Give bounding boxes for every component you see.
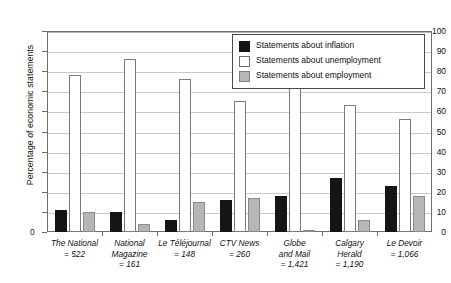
bar-employment [248, 198, 260, 232]
bar-inflation [330, 178, 342, 232]
x-axis-label: NationalMagazine= 161 [102, 238, 157, 270]
x-axis-tick-mark [157, 232, 158, 236]
bar-group [157, 31, 212, 232]
x-axis-label: The National= 522 [47, 238, 102, 270]
x-axis-tick-mark [322, 232, 323, 236]
x-axis-label-count: = 1,190 [322, 259, 377, 270]
x-axis-label: Le Téléjournal= 148 [157, 238, 212, 270]
bar-inflation [385, 186, 397, 232]
x-axis-tick-mark [267, 232, 268, 236]
legend-label-inflation: Statements about inflation [256, 40, 354, 50]
x-axis-label-name: Le Devoir [377, 238, 432, 249]
x-axis-tick-mark [377, 232, 378, 236]
bar-unemployment [179, 79, 191, 232]
bar-employment [358, 220, 370, 232]
x-axis-label-name: Herald [322, 249, 377, 260]
bar-employment [138, 224, 150, 232]
legend-item-inflation: Statements about inflation [239, 40, 418, 52]
x-axis-label: Le Devoir= 1,066 [377, 238, 432, 270]
bar-employment [193, 202, 205, 232]
legend-swatch-unemployment [239, 56, 250, 67]
bar-employment [413, 196, 425, 232]
bar-group [47, 31, 102, 232]
y-axis-zero-label: 0 [30, 227, 35, 237]
x-axis-label-name: Globe [267, 238, 322, 249]
bar-inflation [165, 220, 177, 232]
legend-label-employment: Statements about employment [256, 70, 371, 80]
x-axis-label-name: The National [47, 238, 102, 249]
x-axis-tick-mark [212, 232, 213, 236]
x-axis-label-name: Magazine [102, 249, 157, 260]
x-axis-label-count: = 522 [47, 249, 102, 260]
bar-unemployment [124, 59, 136, 232]
bar-inflation [110, 212, 122, 232]
bar-unemployment [399, 119, 411, 232]
legend-swatch-inflation [239, 41, 250, 52]
bar-inflation [55, 210, 67, 232]
x-axis-label-count: = 260 [212, 249, 267, 260]
x-axis-label-name: National [102, 238, 157, 249]
chart-legend: Statements about inflation Statements ab… [232, 34, 425, 89]
x-axis-label-count: = 1,066 [377, 249, 432, 260]
x-axis-label-count: = 1,421 [267, 259, 322, 270]
x-axis-label: CalgaryHerald= 1,190 [322, 238, 377, 270]
bar-chart: Percentage of economic statements 010203… [0, 0, 451, 283]
x-axis-label: CTV News= 260 [212, 238, 267, 270]
legend-label-unemployment: Statements about unemployment [256, 55, 381, 65]
x-axis-label-count: = 148 [157, 249, 212, 260]
x-axis-label-count: = 161 [102, 259, 157, 270]
x-axis-labels: The National= 522NationalMagazine= 161Le… [47, 238, 432, 270]
y-axis-title: Percentage of economic statements [25, 5, 35, 225]
legend-item-unemployment: Statements about unemployment [239, 55, 418, 67]
bar-unemployment [234, 101, 246, 232]
x-axis-label-name: and Mail [267, 249, 322, 260]
bar-unemployment [69, 75, 81, 232]
legend-swatch-employment [239, 71, 250, 82]
x-axis-label-name: CTV News [212, 238, 267, 249]
bar-employment [83, 212, 95, 232]
x-axis-label: Globeand Mail= 1,421 [267, 238, 322, 270]
y-axis-tick-mark [42, 232, 47, 233]
bar-inflation [275, 196, 287, 232]
x-axis-label-name: Calgary [322, 238, 377, 249]
bar-unemployment [289, 73, 301, 232]
bar-group [102, 31, 157, 232]
x-axis-label-name: Le Téléjournal [157, 238, 212, 249]
bar-employment [303, 230, 315, 232]
legend-item-employment: Statements about employment [239, 70, 418, 82]
x-axis-tick-mark [102, 232, 103, 236]
bar-unemployment [344, 105, 356, 232]
bar-inflation [220, 200, 232, 232]
